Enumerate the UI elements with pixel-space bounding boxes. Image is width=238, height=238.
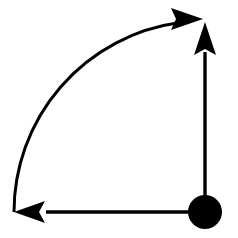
rotation-diagram-figure — [0, 0, 238, 238]
diagram-canvas — [0, 0, 238, 238]
pivot-disk — [188, 195, 222, 229]
